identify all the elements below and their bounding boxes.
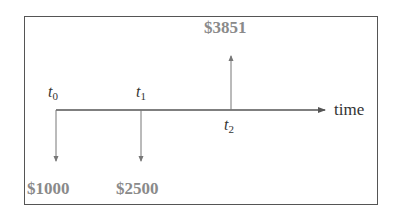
time-point-label-t2: t2 — [224, 117, 234, 135]
time-subscript: 2 — [228, 123, 234, 135]
axis-label-time: time — [334, 101, 364, 118]
amount-t1: $2500 — [116, 180, 159, 197]
amount-t0: $1000 — [27, 180, 70, 197]
amount-t2: $3851 — [204, 19, 247, 36]
time-subscript: 1 — [140, 90, 146, 102]
time-point-label-t0: t0 — [48, 84, 58, 102]
time-point-label-t1: t1 — [136, 84, 146, 102]
time-subscript: 0 — [52, 90, 58, 102]
